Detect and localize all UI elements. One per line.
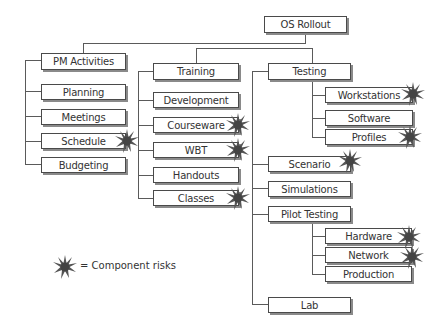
connector bbox=[252, 214, 268, 215]
node-network: Network bbox=[325, 247, 412, 263]
connector bbox=[138, 125, 153, 126]
node-meetings: Meetings bbox=[41, 109, 126, 125]
connector bbox=[138, 71, 153, 72]
node-pm-activities: PM Activities bbox=[41, 53, 126, 70]
connector bbox=[25, 60, 26, 165]
node-schedule: Schedule bbox=[41, 133, 126, 149]
connector bbox=[196, 48, 197, 63]
node-lab: Lab bbox=[268, 297, 351, 313]
connector bbox=[312, 236, 325, 237]
connector bbox=[305, 32, 306, 43]
connector bbox=[25, 141, 41, 142]
risk-starburst-icon bbox=[400, 245, 424, 269]
connector bbox=[25, 91, 41, 92]
connector bbox=[252, 164, 268, 165]
risk-starburst-icon bbox=[338, 149, 362, 173]
connector bbox=[138, 150, 153, 151]
legend-starburst-icon bbox=[53, 255, 77, 279]
node-training: Training bbox=[153, 63, 239, 80]
node-testing: Testing bbox=[268, 63, 351, 80]
node-software: Software bbox=[325, 110, 413, 126]
connector bbox=[196, 48, 312, 49]
connector bbox=[312, 79, 313, 138]
risk-starburst-icon bbox=[226, 186, 250, 210]
connector bbox=[83, 43, 306, 44]
risk-starburst-icon bbox=[226, 113, 250, 137]
connector bbox=[312, 255, 325, 256]
risk-starburst-icon bbox=[398, 125, 422, 149]
node-workstations: Workstations bbox=[325, 87, 413, 103]
risk-starburst-icon bbox=[226, 138, 250, 162]
node-budgeting: Budgeting bbox=[41, 157, 126, 173]
connector bbox=[252, 71, 268, 72]
legend-text: = Component risks bbox=[80, 260, 176, 271]
connector bbox=[25, 60, 41, 61]
node-simulations: Simulations bbox=[268, 181, 351, 197]
connector bbox=[252, 188, 268, 189]
connector bbox=[138, 100, 153, 101]
connector bbox=[83, 43, 84, 53]
connector bbox=[25, 164, 41, 165]
connector bbox=[138, 198, 153, 199]
risk-starburst-icon bbox=[401, 82, 425, 106]
node-development: Development bbox=[153, 92, 239, 108]
connector bbox=[25, 116, 41, 117]
risk-starburst-icon bbox=[115, 129, 139, 153]
connector bbox=[312, 222, 313, 274]
connector bbox=[312, 137, 325, 138]
connector bbox=[312, 95, 325, 96]
connector bbox=[138, 175, 153, 176]
connector bbox=[312, 118, 325, 119]
node-os-rollout: OS Rollout bbox=[264, 16, 347, 33]
connector bbox=[312, 48, 313, 63]
node-handouts: Handouts bbox=[153, 167, 239, 183]
node-pilot-testing: Pilot Testing bbox=[268, 206, 351, 222]
node-production: Production bbox=[325, 266, 412, 282]
node-planning: Planning bbox=[41, 84, 126, 100]
connector bbox=[252, 304, 268, 305]
wbs-diagram: OS Rollout PM Activities Planning Meetin… bbox=[0, 0, 441, 331]
connector bbox=[312, 274, 325, 275]
